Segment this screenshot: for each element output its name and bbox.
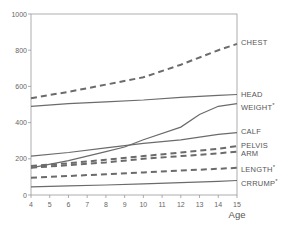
x-tick-label: 15 [233, 201, 241, 208]
series-label-calf: CALF [241, 127, 261, 136]
x-tick-label: 7 [85, 201, 89, 208]
chart-series [31, 44, 237, 187]
series-label-length: LENGTH* [241, 164, 276, 174]
y-tick-label: 200 [15, 155, 27, 162]
series-label-chest: CHEST [241, 38, 268, 47]
x-tick-label: 4 [29, 201, 33, 208]
series-line-pelvis [31, 146, 237, 166]
series-line-length [31, 168, 237, 178]
y-tick-label: 1000 [11, 11, 27, 18]
series-label-crrump: CRRUMP* [241, 178, 278, 188]
series-line-crrump [31, 181, 237, 187]
series-label-arm: ARM [241, 149, 258, 158]
y-tick-label: 600 [15, 83, 27, 90]
y-tick-label: 0 [23, 192, 27, 199]
y-tick-label: 400 [15, 119, 27, 126]
x-tick-label: 6 [67, 201, 71, 208]
series-line-head [31, 95, 237, 107]
series-line-arm [31, 152, 237, 168]
x-tick-label: 10 [139, 201, 147, 208]
growth-chart: 02004006008001000456789101112131415 CHES… [0, 0, 286, 232]
series-label-head: HEAD [241, 90, 263, 99]
chart-axes: 02004006008001000456789101112131415 [11, 11, 241, 209]
x-tick-label: 13 [196, 201, 204, 208]
x-axis-title: Age [229, 209, 246, 220]
series-labels: CHESTHEADWEIGHT*CALFPELVISARMLENGTH*CRRU… [241, 38, 278, 188]
x-tick-label: 5 [48, 201, 52, 208]
series-label-weight: WEIGHT* [241, 102, 275, 112]
series-line-calf [31, 133, 237, 157]
y-tick-label: 800 [15, 47, 27, 54]
x-tick-label: 8 [104, 201, 108, 208]
x-tick-label: 11 [158, 201, 165, 208]
x-tick-label: 12 [177, 201, 185, 208]
x-tick-label: 9 [123, 201, 127, 208]
x-tick-label: 14 [214, 201, 222, 208]
series-line-chest [31, 44, 237, 98]
